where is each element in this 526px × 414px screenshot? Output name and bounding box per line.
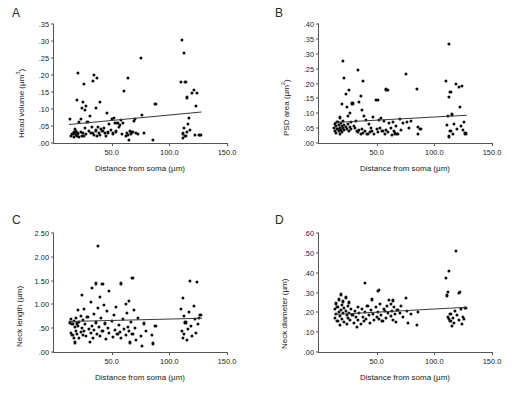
scatter-point [103,322,106,325]
figure-scatter-panels: A .00.05.10.15.20.25.30.3550.0100.0150.0… [0,0,526,414]
scatter-point [79,314,82,317]
scatter-point [102,304,105,307]
scatter-point [185,338,188,341]
scatter-point [192,88,195,91]
scatter-point [106,310,109,313]
x-tick-mark [492,143,493,146]
scatter-point [104,134,107,137]
scatter-point [448,42,451,45]
panel-label-b: B [275,6,283,20]
scatter-point [445,294,448,297]
scatter-point [131,277,134,280]
scatter-point [405,121,408,124]
scatter-point [351,102,354,105]
scatter-point [184,135,187,138]
y-tick-mark [316,292,319,293]
scatter-point [92,80,95,83]
scatter-point [91,126,94,129]
y-axis-label-c: Neck length (µm) [15,286,24,347]
scatter-point [383,133,386,136]
scatter-point [93,312,96,315]
x-tick-mark [434,143,435,146]
scatter-point [131,332,134,335]
y-tick-label: .00 [39,348,49,357]
scatter-point [112,313,115,316]
scatter-point [195,92,198,95]
y-tick-label: 2.50 [35,229,49,238]
y-tick-mark [316,113,319,114]
scatter-point [338,324,341,327]
scatter-point [343,76,346,79]
y-tick-mark [51,304,54,305]
y-tick-mark [316,53,319,54]
x-tick-label: 150.0 [483,148,502,157]
plot-area-a: .00.05.10.15.20.25.30.3550.0100.0150.0 [53,24,227,144]
y-tick-label: 2.00 [35,252,49,261]
scatter-point [154,102,157,105]
x-tick-label: 150.0 [218,148,237,157]
y-tick-mark [51,58,54,59]
scatter-point [94,282,97,285]
x-tick-label: 150.0 [483,357,502,366]
scatter-point [194,104,197,107]
scatter-point [189,279,192,282]
scatter-point [367,123,370,126]
scatter-point [359,322,362,325]
scatter-point [152,342,155,345]
regression-line [69,111,202,125]
y-tick-mark [316,233,319,234]
scatter-point [190,324,193,327]
scatter-point [85,104,88,107]
y-tick-mark [51,280,54,281]
scatter-point [127,300,130,303]
scatter-point [185,96,188,99]
x-tick-mark [112,352,113,355]
y-tick-label: .00 [304,139,314,148]
scatter-point [127,139,130,142]
y-axis-label-b-text: PSD area (µm2) [282,79,291,136]
scatter-point [77,309,80,312]
panel-a: A .00.05.10.15.20.25.30.3550.0100.0150.0… [0,0,263,207]
panel-d: D .00.10.20.30.40.50.6050.0100.0150.0 Ne… [263,207,526,414]
y-tick-mark [316,24,319,25]
scatter-point [85,335,88,338]
scatter-point [108,123,111,126]
scatter-point [372,115,375,118]
scatter-point [344,296,347,299]
y-tick-label: .20 [304,79,314,88]
scatter-point [123,328,126,331]
scatter-point [387,88,390,91]
scatter-point [335,302,338,305]
plot-area-d: .00.10.20.30.40.50.6050.0100.0150.0 [318,233,492,353]
scatter-point [108,331,111,334]
scatter-point [463,121,466,124]
y-axis-label-b: PSD area (µm2) [282,79,291,136]
scatter-point [450,325,453,328]
scatter-point [444,276,447,279]
x-tick-mark [492,352,493,355]
plot-area-b: .00.05.10.15.20.25.30.35.4050.0100.0150.… [318,24,492,144]
y-tick-label: .15 [304,94,314,103]
scatter-point [347,88,350,91]
scatter-point [152,139,155,142]
scatter-point [404,297,407,300]
y-tick-mark [316,128,319,129]
scatter-point [82,330,85,333]
scatter-point [89,331,92,334]
scatter-point [91,286,94,289]
scatter-point [76,332,79,335]
plot-area-c: .00.501.001.502.002.5050.0100.0150.0 [53,233,227,353]
scatter-point [395,125,398,128]
scatter-point [415,87,418,90]
scatter-point [101,282,104,285]
scatter-point [454,310,457,313]
y-tick-mark [51,75,54,76]
scatter-point [124,334,127,337]
y-tick-label: .25 [304,64,314,73]
y-tick-mark [316,332,319,333]
x-tick-mark [227,143,228,146]
scatter-point [117,324,120,327]
scatter-point [449,312,452,315]
scatter-point [77,71,80,74]
y-tick-label: .20 [39,71,49,80]
